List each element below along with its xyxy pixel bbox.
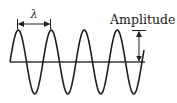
- amplitude-label: Amplitude: [109, 12, 175, 27]
- wave-diagram: λ Amplitude: [0, 0, 177, 103]
- amplitude-dimension: Amplitude: [109, 12, 175, 61]
- wavelength-dimension: λ: [18, 8, 51, 29]
- wavelength-label: λ: [30, 8, 38, 21]
